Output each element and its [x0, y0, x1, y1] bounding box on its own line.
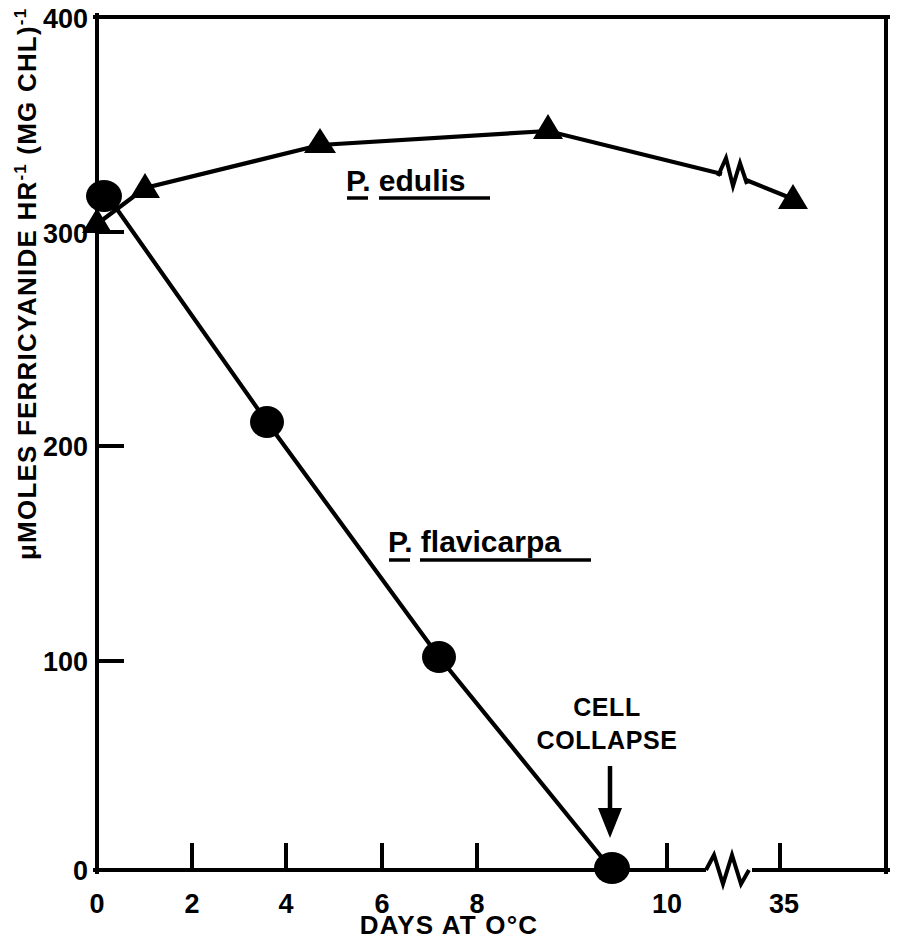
cell-collapse-line-1: CELL [573, 693, 641, 721]
p-flavicarpa-marker-day-9 [594, 852, 630, 884]
y-tick-label-400: 400 [43, 4, 88, 34]
series-label-p-edulis-group: P. edulis [346, 164, 490, 198]
p-flavicarpa-marker-day-6 [422, 641, 456, 673]
y-axis-title-sup-1: -1 [11, 163, 30, 181]
y-tick-label-200: 200 [43, 432, 88, 462]
x-axis-break-mark [706, 855, 752, 884]
cell-collapse-down-arrow-icon [598, 766, 622, 838]
p-edulis-marker-day-4 [304, 128, 336, 153]
chart-figure: 0 100 200 300 400 0 2 4 6 8 10 35 [0, 0, 899, 939]
line-chart-svg: 0 100 200 300 400 0 2 4 6 8 10 35 [0, 0, 899, 939]
plot-frame [95, 15, 888, 872]
arrow-head [598, 808, 622, 838]
y-axis-tick-labels: 0 100 200 300 400 [43, 4, 88, 886]
y-axis-title: μMOLES FERRICYANIDE HR-1 (MG CHL)-1 [11, 8, 42, 560]
series-label-p-flavicarpa: P. flavicarpa [388, 525, 561, 558]
y-axis-title-mid: (MG CHL) [12, 25, 42, 163]
y-tick-label-0: 0 [73, 856, 88, 886]
series-label-p-edulis: P. edulis [346, 164, 466, 197]
annotation-cell-collapse: CELL COLLAPSE [537, 693, 678, 838]
x-tick-label-4: 4 [278, 889, 293, 919]
x-tick-label-2: 2 [184, 889, 199, 919]
series-label-p-flavicarpa-group: P. flavicarpa [388, 525, 591, 560]
x-tick-label-10: 10 [652, 889, 682, 919]
y-tick-label-300: 300 [43, 219, 88, 249]
p-flavicarpa-marker-day-0 [86, 180, 122, 212]
y-axis-title-main: μMOLES FERRICYANIDE HR [12, 181, 42, 560]
cell-collapse-line-2: COLLAPSE [537, 726, 678, 754]
y-axis-ticks [97, 17, 124, 870]
x-tick-label-0: 0 [89, 889, 104, 919]
y-tick-label-100: 100 [43, 647, 88, 677]
x-axis-title: DAYS AT O°C [360, 910, 539, 939]
y-axis-title-sup-2: -1 [11, 8, 30, 26]
p-edulis-marker-day-8 [533, 114, 563, 139]
y-axis-title-group: μMOLES FERRICYANIDE HR-1 (MG CHL)-1 [11, 8, 42, 560]
x-tick-label-35: 35 [769, 889, 799, 919]
x-axis-ticks [97, 843, 780, 870]
p-flavicarpa-marker-day-3 [250, 406, 284, 438]
